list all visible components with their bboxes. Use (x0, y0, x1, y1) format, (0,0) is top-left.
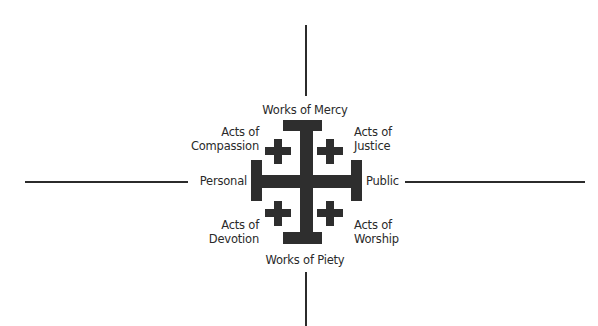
vertical-axis-bottom (305, 272, 307, 326)
cross-top-bar (283, 120, 322, 131)
horizontal-axis-left (25, 181, 188, 183)
label-acts-of-worship: Acts of Worship (354, 218, 434, 246)
label-acts-of-compassion: Acts of Compassion (178, 125, 259, 153)
label-acts-of-justice: Acts of Justice (354, 125, 434, 153)
label-works-of-mercy: Works of Mercy (246, 103, 364, 117)
quadrant-line1: Acts of (354, 218, 434, 232)
cross-left-bar (251, 160, 262, 201)
quadrant-line2: Devotion (178, 232, 259, 246)
cross-right-bar (351, 160, 362, 201)
vertical-axis-top (305, 25, 307, 96)
quadrant-line1: Acts of (178, 125, 259, 139)
label-personal: Personal (180, 174, 247, 188)
cross-arm (251, 175, 362, 188)
horizontal-axis-right (405, 181, 585, 183)
quadrant-line1: Acts of (178, 218, 259, 232)
label-acts-of-devotion: Acts of Devotion (178, 218, 259, 246)
label-works-of-piety: Works of Piety (246, 253, 364, 267)
quadrant-line2: Worship (354, 232, 434, 246)
quadrant-line2: Compassion (178, 139, 259, 153)
cross-bottom-bar (283, 232, 322, 244)
quadrant-line2: Justice (354, 139, 434, 153)
label-public: Public (366, 174, 406, 188)
quadrant-line1: Acts of (354, 125, 434, 139)
